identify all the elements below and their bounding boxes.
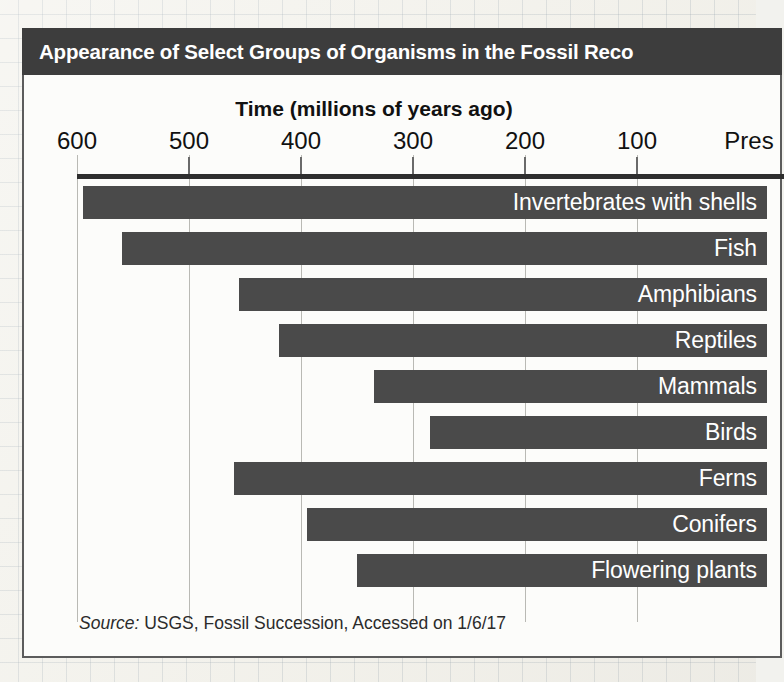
plot-area: 600500400300200100Pres Invertebrates wit…	[24, 75, 784, 658]
bar-row: Fish	[122, 232, 767, 265]
bar-row: Ferns	[234, 462, 767, 495]
bar-label: Fish	[714, 235, 767, 262]
source-value: USGS, Fossil Succession, Accessed on 1/6…	[139, 613, 506, 633]
figure-title-bar: Appearance of Select Groups of Organisms…	[22, 28, 782, 76]
x-tickmark	[412, 157, 414, 175]
bar-row: Conifers	[307, 508, 767, 541]
gridline	[301, 155, 302, 622]
x-tick-label: 100	[617, 127, 657, 155]
chart-panel: Time (millions of years ago) 60050040030…	[22, 75, 782, 658]
bar-label: Ferns	[699, 465, 767, 492]
bar-label: Mammals	[658, 373, 767, 400]
bar-row: Birds	[430, 416, 767, 449]
bar-label: Birds	[705, 419, 767, 446]
bar-label: Flowering plants	[591, 557, 767, 584]
bar-row: Flowering plants	[357, 554, 767, 587]
gridline	[77, 155, 78, 622]
bar-label: Conifers	[672, 511, 767, 538]
source-note: Source: USGS, Fossil Succession, Accesse…	[79, 613, 506, 634]
bar-row: Reptiles	[279, 324, 767, 357]
x-tickmark	[300, 157, 302, 175]
source-label: Source:	[79, 613, 139, 633]
x-tick-label: Pres	[724, 127, 773, 155]
bar-row: Invertebrates with shells	[83, 186, 767, 219]
x-tick-label: 300	[393, 127, 433, 155]
bar-label: Reptiles	[675, 327, 767, 354]
x-tick-label: 500	[169, 127, 209, 155]
bar-label: Invertebrates with shells	[513, 189, 767, 216]
x-tick-label: 600	[57, 127, 97, 155]
x-tick-label: 400	[281, 127, 321, 155]
gridline	[189, 155, 190, 622]
figure-title: Appearance of Select Groups of Organisms…	[39, 40, 633, 64]
bar-label: Amphibians	[638, 281, 767, 308]
x-tick-label: 200	[505, 127, 545, 155]
bar-row: Mammals	[374, 370, 767, 403]
x-tickmark	[636, 157, 638, 175]
bar-row: Amphibians	[239, 278, 767, 311]
fossil-record-figure: Appearance of Select Groups of Organisms…	[22, 28, 782, 658]
x-tickmark	[188, 157, 190, 175]
x-axis-line	[77, 174, 784, 179]
x-tickmark	[524, 157, 526, 175]
